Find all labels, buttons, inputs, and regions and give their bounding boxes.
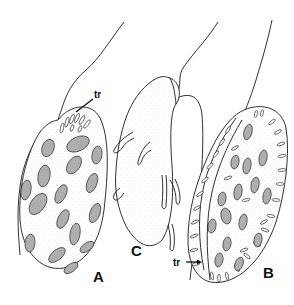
panel-label-a: A [93,268,104,285]
panel-b: tr B [173,20,288,283]
cell-body-c [115,77,179,246]
figure-illustration: tr A C [0,0,294,305]
annotation-tr-b: tr [173,257,180,268]
panel-label-b: B [263,264,274,281]
panel-label-c: C [131,242,142,259]
flagellum-c1 [177,22,218,98]
panel-a: tr A [18,22,124,285]
flagellum-b [242,20,272,120]
flagellum-a [58,22,124,122]
annotation-tr-a: tr [94,89,101,100]
